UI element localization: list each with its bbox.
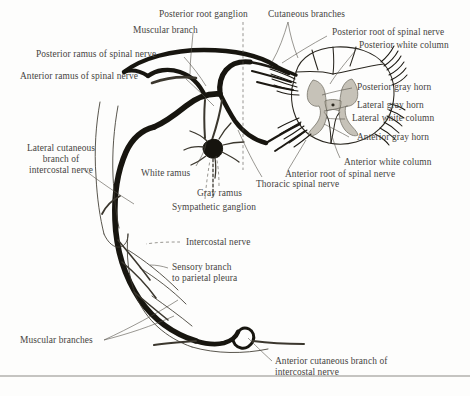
label-posterior-gray-horn: Posterior gray horn [357, 82, 431, 93]
label-lateral-cutaneous-branch-line3: intercostal nerve [6, 165, 116, 176]
label-posterior-ramus-of-spinal-nerve: Posterior ramus of spinal nerve [36, 49, 156, 60]
spinal-nerve-trunk [115, 50, 304, 348]
sympathetic-ganglion-group [184, 100, 244, 196]
label-lateral-gray-horn: Lateral gray horn [357, 100, 424, 111]
label-thoracic-spinal-nerve: Thoracic spinal nerve [256, 179, 339, 190]
label-muscular-branch: Muscular branch [133, 25, 198, 36]
label-anterior-gray-horn: Anterior gray horn [357, 132, 429, 143]
label-sensory-branch-line1: Sensory branch [172, 262, 231, 273]
label-posterior-white-column: Posterior white column [359, 40, 449, 51]
label-anterior-cutaneous-line2: intercostal nerve [275, 367, 339, 378]
label-gray-ramus: Gray ramus [197, 188, 242, 199]
nerve-branches [102, 196, 168, 320]
label-anterior-white-column: Anterior white column [344, 157, 432, 168]
label-lateral-cutaneous-branch-line1: Lateral cutaneous [6, 143, 116, 154]
label-anterior-ramus-of-spinal-nerve: Anterior ramus of spinal nerve [20, 71, 138, 82]
label-lateral-cutaneous-branch-line2: branch of [6, 154, 116, 165]
label-white-ramus: White ramus [141, 168, 190, 179]
label-anterior-cutaneous-line1: Anterior cutaneous branch of [275, 356, 387, 367]
label-posterior-root-of-spinal-nerve: Posterior root of spinal nerve [332, 27, 444, 38]
label-sensory-branch-line2: to parietal pleura [172, 273, 237, 284]
label-sympathetic-ganglion: Sympathetic ganglion [172, 202, 256, 213]
label-muscular-branches: Muscular branches [20, 335, 93, 346]
label-intercostal-nerve: Intercostal nerve [186, 237, 250, 248]
label-posterior-root-ganglion: Posterior root ganglion [159, 9, 248, 20]
label-lateral-white-column: Lateral white column [352, 113, 434, 124]
anatomical-figure: Posterior root ganglion Cutaneous branch… [0, 0, 470, 396]
label-cutaneous-branches: Cutaneous branches [268, 9, 345, 20]
